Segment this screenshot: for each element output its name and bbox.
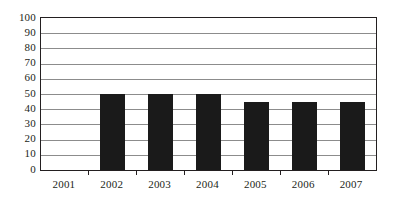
y-axis-tick-label: 0 xyxy=(2,164,36,175)
bar-chart: 100 90 80 70 60 50 40 30 20 10 0 xyxy=(0,0,399,204)
x-axis-tick xyxy=(328,171,329,175)
x-axis: 2001 2002 2003 2004 2005 2006 2007 xyxy=(40,178,377,194)
y-axis-tick-label: 100 xyxy=(2,12,36,23)
gridline xyxy=(41,33,376,34)
y-axis-tick-label: 40 xyxy=(2,103,36,114)
y-axis-tick-label: 50 xyxy=(2,88,36,99)
x-axis-tick-label: 2007 xyxy=(327,178,375,191)
x-axis-tick xyxy=(136,171,137,175)
bar-2003 xyxy=(148,94,173,170)
x-axis-tick xyxy=(280,171,281,175)
gridline xyxy=(41,79,376,80)
bar-2006 xyxy=(292,102,317,170)
y-axis-tick-label: 30 xyxy=(2,118,36,129)
bar-2002 xyxy=(100,94,125,170)
bar-2007 xyxy=(340,102,365,170)
y-axis-tick-label: 80 xyxy=(2,42,36,53)
x-axis-tick xyxy=(232,171,233,175)
x-axis-ticks xyxy=(40,171,377,176)
x-axis-tick xyxy=(184,171,185,175)
y-axis: 100 90 80 70 60 50 40 30 20 10 0 xyxy=(0,17,36,171)
x-axis-tick-label: 2006 xyxy=(279,178,327,191)
x-axis-tick-label: 2002 xyxy=(88,178,136,191)
y-axis-tick-label: 90 xyxy=(2,27,36,38)
y-axis-tick-label: 10 xyxy=(2,148,36,159)
gridline xyxy=(41,48,376,49)
x-axis-tick xyxy=(88,171,89,175)
x-axis-tick-label: 2005 xyxy=(231,178,279,191)
bar-2004 xyxy=(196,94,221,170)
y-axis-tick-label: 20 xyxy=(2,133,36,144)
x-axis-tick-label: 2004 xyxy=(184,178,232,191)
y-axis-tick-label: 70 xyxy=(2,57,36,68)
y-axis-tick-label: 60 xyxy=(2,72,36,83)
x-axis-tick-label: 2003 xyxy=(136,178,184,191)
bar-2005 xyxy=(244,102,269,170)
gridline xyxy=(41,64,376,65)
plot-area xyxy=(40,17,377,171)
x-axis-tick-label: 2001 xyxy=(40,178,88,191)
